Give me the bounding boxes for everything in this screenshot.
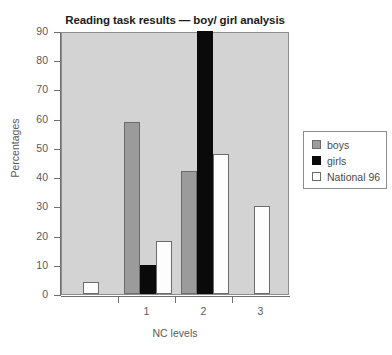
y-tick-label: 80 — [4, 54, 48, 66]
plot-area — [61, 32, 289, 295]
bar-girls-level-1 — [140, 265, 156, 294]
bar-boys-level-1 — [124, 122, 140, 294]
x-tick-mark — [232, 296, 233, 303]
legend-swatch-boys-icon — [312, 140, 321, 149]
y-tick-mark — [54, 120, 61, 121]
x-tick-label: 2 — [184, 305, 224, 317]
y-tick-mark — [54, 32, 61, 33]
y-tick-mark — [54, 207, 61, 208]
bar-national-level-2 — [213, 154, 229, 294]
reading-task-bar-chart: Reading task results — boy/ girl analysi… — [0, 0, 392, 355]
chart-title: Reading task results — boy/ girl analysi… — [46, 14, 304, 26]
y-tick-mark — [54, 61, 61, 62]
bar-boys-level-2 — [181, 171, 197, 294]
y-tick-label: 20 — [4, 230, 48, 242]
x-tick-label: 3 — [241, 305, 281, 317]
y-tick-mark — [54, 90, 61, 91]
x-tick-mark — [175, 296, 176, 303]
legend-item-national: National 96 — [312, 170, 380, 183]
x-tick-label: 1 — [127, 305, 167, 317]
y-tick-label: 60 — [4, 113, 48, 125]
bars-layer — [62, 33, 288, 294]
y-tick-label: 50 — [4, 142, 48, 154]
legend-label-girls: girls — [327, 155, 346, 167]
y-tick-mark — [54, 237, 61, 238]
x-axis-title: NC levels — [105, 327, 245, 339]
y-tick-label: 40 — [4, 171, 48, 183]
legend-swatch-girls-icon — [312, 156, 321, 165]
y-tick-label: 10 — [4, 259, 48, 271]
x-tick-mark — [118, 296, 119, 303]
bar-national-level-0 — [83, 282, 99, 294]
y-tick-label: 30 — [4, 200, 48, 212]
legend-swatch-national-icon — [312, 172, 321, 181]
bar-national-level-3 — [254, 206, 270, 294]
chart-legend: boys girls National 96 — [303, 131, 387, 189]
y-tick-label: 0 — [4, 288, 48, 300]
legend-item-girls: girls — [312, 154, 346, 167]
y-tick-mark — [54, 178, 61, 179]
y-tick-label: 70 — [4, 83, 48, 95]
y-axis-line — [60, 32, 61, 296]
y-tick-mark — [54, 266, 61, 267]
bar-national-level-1 — [156, 241, 172, 294]
legend-label-boys: boys — [327, 139, 349, 151]
y-tick-label: 90 — [4, 25, 48, 37]
legend-label-national: National 96 — [327, 171, 380, 183]
y-tick-mark — [54, 295, 61, 296]
legend-item-boys: boys — [312, 138, 349, 151]
bar-girls-level-2 — [197, 31, 213, 294]
y-tick-mark — [54, 149, 61, 150]
